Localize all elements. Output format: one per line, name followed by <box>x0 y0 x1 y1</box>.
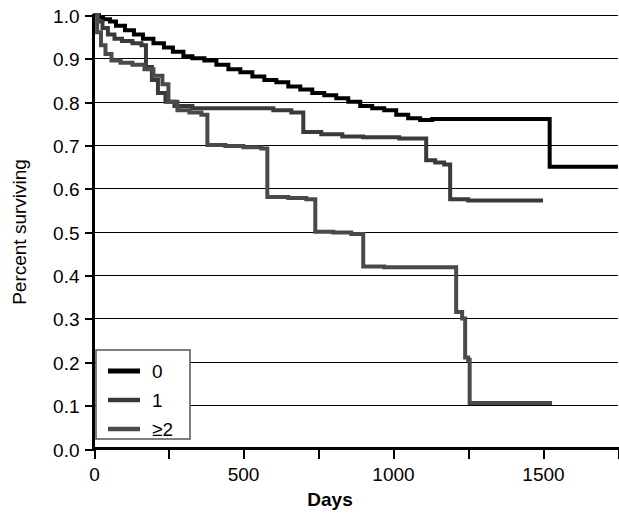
x-tick-label-4: 1000 <box>372 464 414 485</box>
legend-box-background <box>96 350 190 439</box>
y-tick-label-10: 1.0 <box>53 6 79 27</box>
kaplan-meier-chart: 0.00.10.20.30.40.50.60.70.80.91.0 050010… <box>0 0 619 516</box>
survival-curves-group <box>94 15 619 403</box>
y-tick-label-4: 0.4 <box>53 266 80 287</box>
y-axis-title: Percent surviving <box>9 159 30 305</box>
survival-curve-group-0 <box>94 15 619 167</box>
x-tick-label-2: 500 <box>228 464 260 485</box>
y-tick-label-3: 0.3 <box>53 309 79 330</box>
y-tick-label-6: 0.6 <box>53 179 79 200</box>
x-tick-label-6: 1500 <box>522 464 564 485</box>
y-tick-label-9: 0.9 <box>53 49 79 70</box>
chart-legend: 01≥2 <box>96 350 190 440</box>
x-tick-label-0: 0 <box>89 464 100 485</box>
legend-label-2: ≥2 <box>152 419 173 440</box>
y-tick-label-7: 0.7 <box>53 136 79 157</box>
y-tick-label-8: 0.8 <box>53 93 79 114</box>
y-tick-label-5: 0.5 <box>53 223 79 244</box>
y-tick-label-1: 0.1 <box>53 396 79 417</box>
y-tick-label-2: 0.2 <box>53 353 79 374</box>
x-tick-labels-group: 050010001500 <box>89 464 564 485</box>
y-tick-label-0: 0.0 <box>53 440 79 461</box>
legend-label-0: 0 <box>152 361 163 382</box>
survival-curve-group-≥2 <box>94 15 553 403</box>
legend-label-1: 1 <box>152 390 163 411</box>
chart-svg: 0.00.10.20.30.40.50.60.70.80.91.0 050010… <box>0 0 619 516</box>
x-axis-title: Days <box>307 489 352 510</box>
y-tick-labels-group: 0.00.10.20.30.40.50.60.70.80.91.0 <box>53 6 80 461</box>
